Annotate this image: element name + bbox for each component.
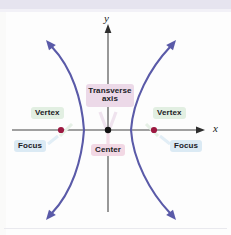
x-axis-label: x [213, 122, 218, 134]
hyperbola-figure: y x Transverse axis Vertex Vertex Focus … [0, 0, 231, 235]
transverse-axis-label-line2: axis [102, 94, 118, 103]
focus-point-right [151, 127, 157, 133]
focus-point-left [58, 127, 64, 133]
center-label: Center [91, 144, 125, 156]
y-axis-label: y [104, 12, 109, 24]
center-point [105, 127, 111, 133]
focus-label-left: Focus [14, 140, 46, 152]
transverse-axis-label: Transverse axis [86, 84, 134, 107]
y-axis [105, 24, 112, 212]
focus-label-right: Focus [170, 140, 202, 152]
vertex-label-left: Vertex [31, 107, 64, 119]
vertex-label-right: Vertex [153, 107, 186, 119]
